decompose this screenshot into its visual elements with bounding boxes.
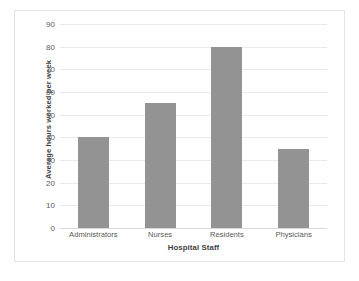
x-axis-tick-label: Physicians — [260, 230, 327, 239]
y-axis-tick-label: 10 — [46, 201, 55, 210]
x-axis-tick-label: Administrators — [60, 230, 127, 239]
y-axis-tick-label: 0 — [51, 224, 55, 233]
bar-slot — [60, 24, 127, 228]
y-axis-tick-label: 70 — [46, 65, 55, 74]
y-axis-tick-label: 50 — [46, 110, 55, 119]
bar-slot — [194, 24, 261, 228]
bar-chart-figure: Average hours worked per week 9080706050… — [0, 0, 359, 281]
y-axis-tick-label: 90 — [46, 20, 55, 29]
x-axis-tick-labels: AdministratorsNursesResidentsPhysicians — [60, 230, 327, 239]
x-axis-title: Hospital Staff — [60, 243, 327, 252]
y-axis-tick-label: 60 — [46, 87, 55, 96]
y-axis-tick-label: 80 — [46, 42, 55, 51]
x-axis-tick-label: Nurses — [127, 230, 194, 239]
x-axis-tick-label: Residents — [194, 230, 261, 239]
bar — [278, 149, 309, 228]
y-axis-tick-label: 20 — [46, 178, 55, 187]
y-axis-tick-label: 30 — [46, 155, 55, 164]
y-axis-tick-label: 40 — [46, 133, 55, 142]
bar-slot — [260, 24, 327, 228]
bar — [78, 137, 109, 228]
gridline — [60, 228, 327, 229]
bar — [145, 103, 176, 228]
plot-area: 9080706050403020100 — [60, 24, 327, 228]
bar-series — [60, 24, 327, 228]
bar — [211, 47, 242, 228]
bar-slot — [127, 24, 194, 228]
y-axis-title: Average hours worked per week — [44, 40, 53, 200]
chart-frame: Average hours worked per week 9080706050… — [14, 10, 345, 262]
